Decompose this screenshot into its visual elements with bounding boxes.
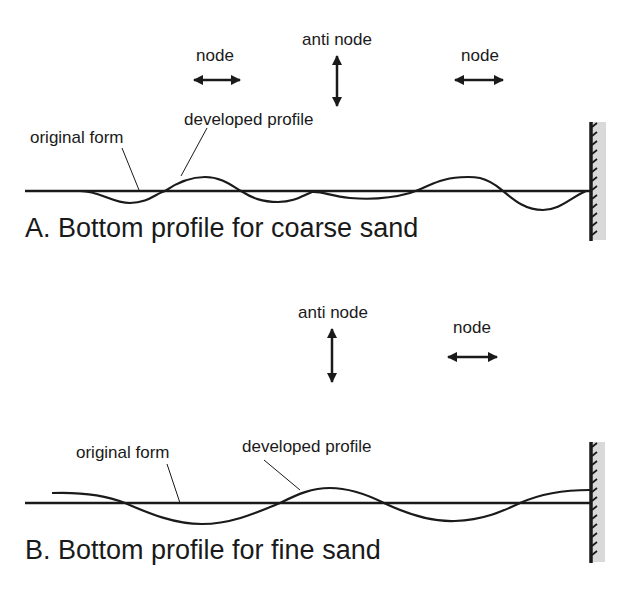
developed-profile-label: developed profile	[184, 110, 313, 129]
developed-profile-label: developed profile	[242, 437, 371, 456]
developed-profile-curve	[80, 177, 586, 210]
node-right-label: node	[453, 318, 491, 337]
wall-b-icon	[591, 442, 605, 563]
developed-profile-leader	[181, 128, 207, 176]
developed-profile-leader	[264, 460, 300, 490]
node-right-label: node	[461, 46, 499, 65]
original-form-leader	[122, 148, 139, 190]
original-form-label: original form	[30, 128, 124, 147]
panel-a: node anti node node original form develo…	[25, 30, 606, 243]
developed-profile-curve	[52, 488, 590, 524]
panel-b-title: B. Bottom profile for fine sand	[25, 535, 381, 565]
bottom-profile-diagram: node anti node node original form develo…	[0, 0, 630, 594]
wall-a-icon	[591, 122, 606, 241]
node-left-label: node	[196, 46, 234, 65]
panel-b: anti node node original form developed p…	[25, 303, 605, 565]
original-form-label: original form	[76, 443, 170, 462]
panel-a-title: A. Bottom profile for coarse sand	[25, 213, 418, 243]
anti-node-label: anti node	[302, 30, 372, 49]
anti-node-label: anti node	[298, 303, 368, 322]
original-form-leader	[167, 464, 180, 503]
